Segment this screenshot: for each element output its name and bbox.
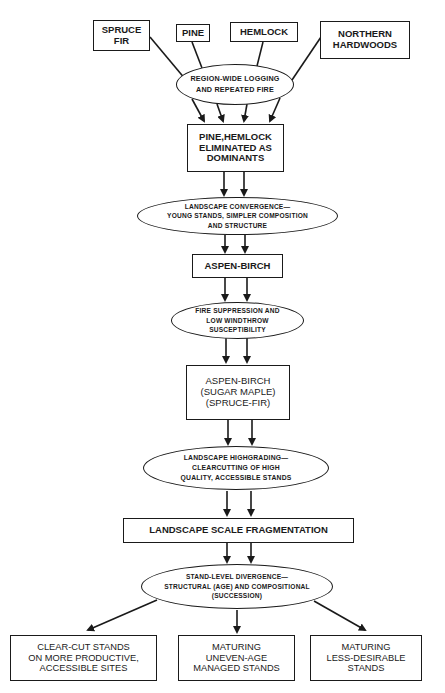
source-spruce-fir-label: SPRUCE FIR (102, 25, 142, 47)
process-fire-suppression-ellipse: FIRE SUPPRESSION AND LOW WINDTHROW SUSCE… (171, 302, 304, 339)
outcome-clear-cut-box: CLEAR-CUT STANDS ON MORE PRODUCTIVE, ACC… (10, 635, 157, 681)
process-landscape-highgrading-ellipse: LANDSCAPE HIGHGRADING— CLEARCUTTING OF H… (143, 446, 329, 490)
state-landscape-fragmentation-box: LANDSCAPE SCALE FRAGMENTATION (123, 518, 354, 543)
process-logging-fire-label: REGION-WIDE LOGGING AND REPEATED FIRE (190, 74, 279, 95)
source-pine-box: PINE (176, 24, 210, 42)
outcome-less-desirable-label: MATURING LESS-DESIRABLE STANDS (326, 642, 405, 674)
source-pine-label: PINE (182, 28, 204, 39)
source-hemlock-box: HEMLOCK (230, 22, 298, 42)
process-landscape-convergence-label: LANDSCAPE CONVERGENCE— YOUNG STANDS, SIM… (167, 202, 308, 231)
process-landscape-convergence-ellipse: LANDSCAPE CONVERGENCE— YOUNG STANDS, SIM… (137, 197, 338, 235)
outcome-uneven-age-label: MATURING UNEVEN-AGE MANAGED STANDS (193, 642, 280, 674)
state-pine-hemlock-eliminated-label: PINE,HEMLOCK ELIMINATED AS DOMINANTS (199, 132, 272, 165)
outcome-uneven-age-box: MATURING UNEVEN-AGE MANAGED STANDS (178, 635, 295, 681)
source-northern-hardwoods-label: NORTHERN HARDWOODS (333, 29, 397, 51)
state-pine-hemlock-eliminated-box: PINE,HEMLOCK ELIMINATED AS DOMINANTS (187, 124, 284, 172)
source-northern-hardwoods-box: NORTHERN HARDWOODS (320, 21, 410, 59)
outcome-clear-cut-label: CLEAR-CUT STANDS ON MORE PRODUCTIVE, ACC… (28, 642, 139, 674)
process-fire-suppression-label: FIRE SUPPRESSION AND LOW WINDTHROW SUSCE… (195, 306, 279, 335)
source-spruce-fir-box: SPRUCE FIR (93, 20, 150, 51)
process-stand-level-divergence-label: STAND-LEVEL DIVERGENCE— STRUCTURAL (AGE)… (164, 572, 310, 601)
process-landscape-highgrading-label: LANDSCAPE HIGHGRADING— CLEARCUTTING OF H… (181, 453, 292, 483)
state-aspen-birch-mixed-box: ASPEN-BIRCH (SUGAR MAPLE) (SPRUCE-FIR) (186, 365, 290, 420)
source-hemlock-label: HEMLOCK (240, 27, 288, 38)
outcome-less-desirable-box: MATURING LESS-DESIRABLE STANDS (310, 635, 422, 681)
state-aspen-birch-label: ASPEN-BIRCH (205, 261, 271, 272)
state-landscape-fragmentation-label: LANDSCAPE SCALE FRAGMENTATION (149, 525, 328, 536)
process-stand-level-divergence-ellipse: STAND-LEVEL DIVERGENCE— STRUCTURAL (AGE)… (141, 564, 333, 609)
state-aspen-birch-box: ASPEN-BIRCH (192, 254, 283, 278)
process-logging-fire-ellipse: REGION-WIDE LOGGING AND REPEATED FIRE (176, 64, 294, 105)
state-aspen-birch-mixed-label: ASPEN-BIRCH (SUGAR MAPLE) (SPRUCE-FIR) (201, 376, 276, 409)
